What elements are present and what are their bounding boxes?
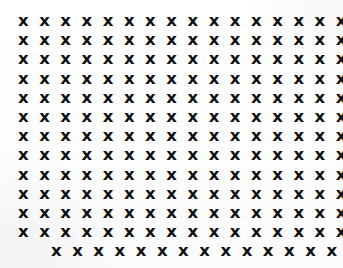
glyph-row: x x x x x x x x x x x x x x x x x x x x … (0, 49, 343, 68)
document-page: x x x x x x x x x x x x x x x x x x x x … (0, 0, 343, 268)
glyph-row-last: x x x x x x x x x x x x x x x x x x (0, 241, 343, 260)
glyph-row: x x x x x x x x x x x x x x x x x x x x … (0, 11, 343, 30)
glyph-row: x x x x x x x x x x x x x x x x x x x x … (0, 88, 343, 107)
glyph-row: x x x x x x x x x x x x x x x x x x x x … (0, 203, 343, 222)
glyph-row: x x x x x x x x x x x x x x x x x x x x … (0, 184, 343, 203)
glyph-row: x x x x x x x x x x x x x x x x x x x x … (0, 30, 343, 49)
glyph-row: x x x x x x x x x x x x x x x x x x x x … (0, 165, 343, 184)
glyph-row: x x x x x x x x x x x x x x x x x x x x … (0, 107, 343, 126)
glyph-row: x x x x x x x x x x x x x x x x x x x x … (0, 69, 343, 88)
x-character-grid: x x x x x x x x x x x x x x x x x x x x … (0, 0, 343, 260)
glyph-row: x x x x x x x x x x x x x x x x x x x x … (0, 126, 343, 145)
glyph-row: x x x x x x x x x x x x x x x x x x x x … (0, 222, 343, 241)
glyph-row: x x x x x x x x x x x x x x x x x x x x … (0, 145, 343, 164)
